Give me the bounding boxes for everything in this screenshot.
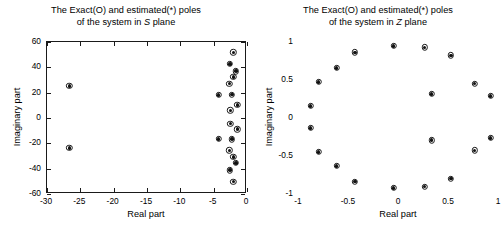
estimated-pole-marker	[334, 163, 340, 169]
estimated-pole-marker	[229, 136, 235, 142]
estimated-pole-marker	[216, 136, 222, 142]
y-tick-mark-right	[241, 42, 245, 43]
figure-root: The Exact(O) and estimated(*) poles of t…	[0, 0, 504, 251]
x-tick-label: 1	[496, 196, 501, 206]
estimated-pole-marker	[488, 93, 494, 99]
title-line-2: of the system in S plane	[0, 16, 252, 28]
estimated-pole-marker	[334, 65, 340, 71]
title-line-1: The Exact(O) and estimated(*) poles	[252, 4, 504, 16]
x-axis-title-z-plane: Real part	[298, 209, 498, 219]
x-tick-mark-top	[114, 42, 115, 46]
estimated-pole-marker	[422, 184, 428, 190]
panel-title-z-plane: The Exact(O) and estimated(*) poles of t…	[252, 4, 504, 28]
estimated-pole-marker	[391, 43, 397, 49]
x-tick-label: 0	[244, 196, 249, 206]
x-tick-label: -0.5	[341, 196, 355, 206]
x-tick-mark	[114, 188, 115, 192]
estimated-pole-marker	[316, 149, 322, 155]
y-tick-mark	[47, 118, 51, 119]
plot-area-s-plane	[46, 41, 246, 193]
x-tick-label: -25	[73, 196, 85, 206]
estimated-pole-marker	[227, 121, 233, 127]
estimated-pole-marker	[316, 79, 322, 85]
panel-title-s-plane: The Exact(O) and estimated(*) poles of t…	[0, 4, 252, 28]
x-tick-mark	[47, 188, 48, 192]
title-line-1: The Exact(O) and estimated(*) poles	[0, 4, 252, 16]
x-tick-mark	[147, 188, 148, 192]
estimated-pole-marker	[230, 74, 236, 80]
estimated-pole-marker	[488, 135, 494, 141]
y-tick-mark	[47, 93, 51, 94]
y-tick-label: -0.5	[252, 150, 293, 160]
title-line-2-prefix: of the system in	[77, 17, 144, 27]
y-tick-mark-right	[241, 93, 245, 94]
y-tick-mark	[47, 169, 51, 170]
panel-z-plane: The Exact(O) and estimated(*) poles of t…	[252, 0, 504, 251]
x-tick-label: 0	[396, 196, 401, 206]
x-tick-label: -1	[294, 196, 301, 206]
x-tick-mark	[80, 188, 81, 192]
x-tick-mark-top	[247, 42, 248, 46]
estimated-pole-marker	[352, 179, 358, 185]
x-tick-label: -15	[140, 196, 152, 206]
x-tick-label: 0.5	[442, 196, 454, 206]
y-tick-mark	[47, 143, 51, 144]
estimated-pole-marker	[422, 44, 428, 50]
y-axis-title-s-plane: Imaginary part	[12, 88, 22, 147]
estimated-pole-marker	[352, 49, 358, 55]
x-tick-mark	[180, 188, 181, 192]
title-line-2-prefix: of the system in	[329, 17, 396, 27]
estimated-pole-marker	[227, 61, 233, 67]
y-tick-mark-right	[241, 194, 245, 195]
y-tick-label: 0.5	[252, 74, 293, 84]
x-tick-label: -5	[209, 196, 216, 206]
estimated-pole-marker	[230, 49, 236, 55]
estimated-pole-marker	[66, 145, 72, 151]
estimated-pole-marker	[472, 81, 478, 87]
y-tick-mark-right	[241, 67, 245, 68]
y-tick-mark	[47, 67, 51, 68]
y-tick-label: -60	[0, 188, 41, 198]
estimated-pole-marker	[448, 176, 454, 182]
x-axis-title-s-plane: Real part	[46, 209, 246, 219]
y-axis-title-z-plane: Imaginary part	[264, 88, 274, 147]
estimated-pole-marker	[233, 160, 239, 166]
y-tick-mark	[47, 42, 51, 43]
x-tick-mark	[214, 188, 215, 192]
title-line-2-suffix: plane	[150, 17, 175, 27]
x-tick-mark	[247, 188, 248, 192]
estimated-pole-marker	[227, 167, 233, 173]
estimated-pole-marker	[227, 107, 233, 113]
estimated-pole-marker	[230, 179, 236, 185]
estimated-pole-marker	[429, 91, 435, 97]
estimated-pole-marker	[226, 81, 232, 87]
y-tick-mark-right	[241, 118, 245, 119]
y-tick-label: -40	[0, 163, 41, 173]
estimated-pole-marker	[233, 68, 239, 74]
estimated-pole-marker	[66, 83, 72, 89]
estimated-pole-marker	[234, 126, 240, 132]
panel-s-plane: The Exact(O) and estimated(*) poles of t…	[0, 0, 252, 251]
estimated-pole-marker	[216, 92, 222, 98]
y-tick-label: 1	[252, 36, 293, 46]
estimated-pole-marker	[308, 125, 314, 131]
estimated-pole-marker	[226, 147, 232, 153]
x-tick-mark-top	[180, 42, 181, 46]
y-tick-mark	[47, 194, 51, 195]
x-tick-label: -20	[107, 196, 119, 206]
x-tick-label: -10	[173, 196, 185, 206]
x-tick-mark-top	[214, 42, 215, 46]
y-tick-label: 60	[0, 36, 41, 46]
estimated-pole-marker	[448, 52, 454, 58]
title-line-2: of the system in Z plane	[252, 16, 504, 28]
x-tick-mark-top	[147, 42, 148, 46]
y-tick-label: 40	[0, 61, 41, 71]
estimated-pole-marker	[229, 92, 235, 98]
estimated-pole-marker	[472, 147, 478, 153]
estimated-pole-marker	[234, 102, 240, 108]
estimated-pole-marker	[308, 103, 314, 109]
y-tick-mark-right	[241, 169, 245, 170]
estimated-pole-marker	[391, 185, 397, 191]
y-tick-mark-right	[241, 143, 245, 144]
title-line-2-suffix: plane	[402, 17, 427, 27]
